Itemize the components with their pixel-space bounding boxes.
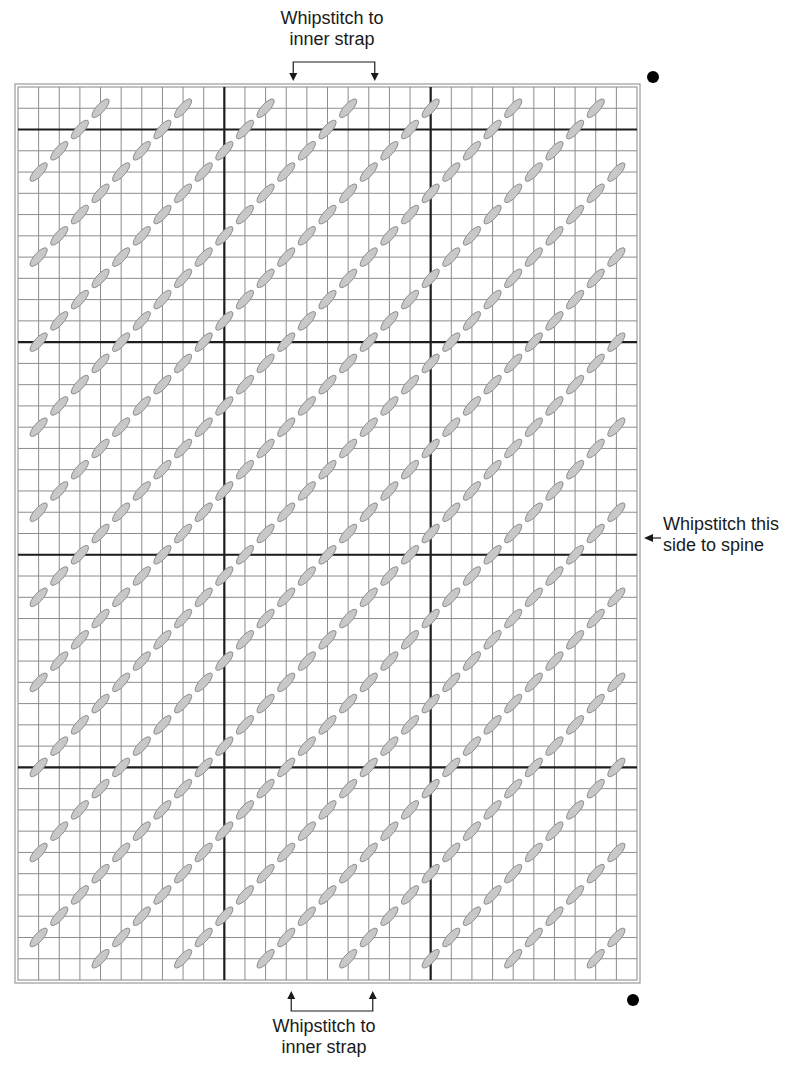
bottom-right-arrow-icon — [369, 991, 377, 999]
bottom-annotation-line1: Whipstitch to — [250, 1016, 398, 1037]
top-right-arrow-icon — [371, 73, 379, 81]
bottom-left-arrow-icon — [287, 991, 295, 999]
right-annotation-line1: Whipstitch this — [663, 514, 808, 535]
right-annotation: Whipstitch this side to spine — [663, 514, 808, 556]
top-bracket-line — [293, 62, 375, 78]
bottom-right-dot-icon — [627, 994, 639, 1006]
top-right-dot-icon — [647, 71, 659, 83]
top-annotation-line1: Whipstitch to — [258, 8, 406, 29]
right-annotation-line2: side to spine — [663, 535, 808, 556]
right-arrow-icon — [644, 534, 653, 542]
bottom-annotation-line2: inner strap — [250, 1037, 398, 1058]
bottom-annotation: Whipstitch to inner strap — [250, 1016, 398, 1058]
bottom-bracket-line — [291, 998, 373, 1011]
top-annotation: Whipstitch to inner strap — [258, 8, 406, 50]
top-left-arrow-icon — [289, 73, 297, 81]
top-annotation-line2: inner strap — [258, 29, 406, 50]
